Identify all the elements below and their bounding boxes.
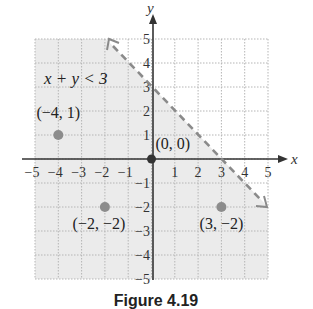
y-tick-label: −2 — [135, 200, 150, 215]
coordinate-plane: x y −5−4−3−2−112345 12345−1−2−3−4−5 x + … — [0, 0, 313, 309]
inequality-label: x + y < 3 — [43, 69, 108, 88]
y-tick-label: 2 — [143, 104, 150, 119]
y-tick-label: −1 — [135, 176, 150, 191]
x-tick-label: 3 — [218, 165, 225, 180]
x-tick-label: 2 — [195, 165, 202, 180]
y-tick-label: 5 — [143, 32, 150, 47]
x-tick-label: 1 — [171, 165, 178, 180]
y-tick-label: −4 — [135, 248, 150, 263]
y-tick-label: 1 — [143, 128, 150, 143]
point-marker — [147, 155, 156, 164]
figure-caption: Figure 4.19 — [114, 292, 199, 309]
x-tick-label: −5 — [25, 165, 40, 180]
y-tick-label: −5 — [135, 272, 150, 287]
x-tick-label: −3 — [71, 165, 86, 180]
point-label: (−4, 1) — [36, 104, 80, 122]
x-tick-label: −1 — [118, 165, 133, 180]
x-tick-label: 5 — [265, 165, 272, 180]
point-marker — [53, 130, 63, 140]
point-label: (−2, −2) — [73, 215, 126, 233]
x-tick-label: 4 — [241, 165, 248, 180]
x-axis-arrow-icon — [278, 155, 288, 163]
point-marker — [100, 202, 110, 212]
point-marker — [216, 202, 226, 212]
y-axis-label: y — [145, 0, 154, 16]
y-tick-label: 4 — [143, 56, 150, 71]
point-label: (3, −2) — [200, 215, 244, 233]
x-tick-label: −2 — [94, 165, 109, 180]
y-tick-label: −3 — [135, 224, 150, 239]
x-axis-label: x — [290, 151, 298, 167]
point-label: (0, 0) — [156, 135, 191, 153]
x-tick-label: −4 — [48, 165, 63, 180]
